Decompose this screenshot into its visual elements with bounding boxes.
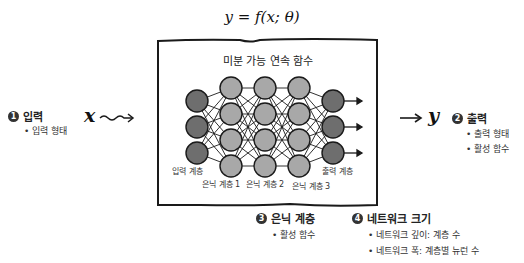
hidden-neuron (288, 103, 310, 125)
input-variable: x (84, 104, 95, 126)
label-hidden-layer-3: 은닉 계층 3 (292, 180, 330, 191)
output-neuron (322, 116, 344, 138)
badge-3-icon: 3 (256, 213, 267, 224)
badge-2-icon: 2 (452, 113, 463, 124)
output-variable: y (428, 104, 439, 126)
output-section-title: 2 출력 (452, 110, 487, 126)
output-bullet-1: 출력 형태 (466, 127, 509, 140)
output-bullet-2: 활성 함수 (466, 142, 509, 155)
output-title: 출력 (467, 110, 487, 126)
output-arrow-icon (400, 114, 421, 122)
input-bullet-1: 입력 형태 (24, 124, 67, 137)
output-arrow-head-icon (357, 98, 362, 104)
output-arrow-head-icon (357, 150, 362, 156)
network-size-bullet-1: 네트워크 깊이: 계층 수 (368, 228, 460, 241)
label-hidden-layer-1: 은닉 계층 1 (202, 178, 240, 189)
hidden-neuron (220, 155, 242, 177)
hidden-neuron (288, 129, 310, 151)
label-hidden-layer-2: 은닉 계층 2 (246, 178, 284, 189)
label-output-layer: 출력 계층 (322, 165, 353, 176)
network-size-bullet-2: 네트워크 폭: 계층별 뉴런 수 (368, 244, 479, 257)
output-arrow-head-icon (357, 124, 362, 130)
input-neuron (186, 116, 208, 138)
output-neuron (322, 142, 344, 164)
network-size-section-title: 4 네트워크 크기 (352, 210, 431, 226)
badge-4-icon: 4 (352, 213, 363, 224)
hidden-neuron (220, 129, 242, 151)
hidden-neuron (220, 103, 242, 125)
network-size-title: 네트워크 크기 (367, 210, 431, 226)
hidden-neuron (254, 77, 276, 99)
input-title: 입력 (23, 108, 43, 124)
hidden-neuron (288, 155, 310, 177)
output-neuron (322, 90, 344, 112)
hidden-neuron (288, 77, 310, 99)
hidden-section-title: 3 은닉 계층 (256, 210, 315, 226)
hidden-bullet-1: 활성 함수 (272, 228, 315, 241)
hidden-neuron (220, 77, 242, 99)
hidden-neuron (254, 129, 276, 151)
badge-1-icon: 1 (8, 111, 19, 122)
hidden-neuron (254, 155, 276, 177)
box-title: 미분 가능 연속 함수 (158, 52, 378, 68)
hidden-title: 은닉 계층 (271, 210, 315, 226)
input-arrow-icon (100, 114, 133, 122)
input-neuron (186, 90, 208, 112)
input-section-title: 1 입력 (8, 108, 43, 124)
input-neuron (186, 142, 208, 164)
label-input-layer: 입력 계층 (172, 165, 203, 176)
hidden-neuron (254, 103, 276, 125)
